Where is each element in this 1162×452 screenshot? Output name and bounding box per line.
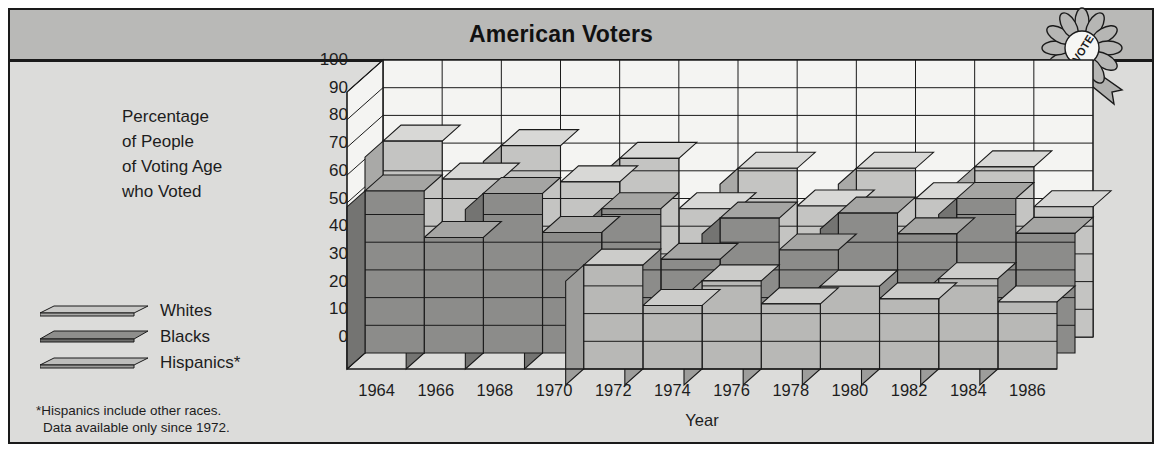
plot-area xyxy=(10,10,1152,442)
x-tick-label: 1972 xyxy=(582,381,644,400)
x-tick-label: 1964 xyxy=(346,381,408,400)
y-tick-label: 0 xyxy=(302,327,348,347)
bar-side-face xyxy=(566,265,584,385)
y-tick-label: 70 xyxy=(302,133,348,153)
bar-side-face xyxy=(347,191,365,369)
y-tick-label: 80 xyxy=(302,105,348,125)
chart-frame: American Voters xyxy=(8,8,1154,444)
y-tick-label: 90 xyxy=(302,78,348,98)
bar-front-face xyxy=(998,302,1057,369)
y-tick-label: 30 xyxy=(302,244,348,264)
x-tick-label: 1986 xyxy=(996,381,1058,400)
x-tick-label: 1984 xyxy=(937,381,999,400)
x-tick-label: 1982 xyxy=(878,381,940,400)
x-tick-label: 1974 xyxy=(641,381,703,400)
x-tick-label: 1980 xyxy=(819,381,881,400)
y-tick-label: 10 xyxy=(302,299,348,319)
y-tick-label: 60 xyxy=(302,161,348,181)
x-axis-title: Year xyxy=(347,411,1057,430)
bar-front-face xyxy=(483,193,542,353)
y-tick-label: 40 xyxy=(302,216,348,236)
bar-front-face xyxy=(939,279,998,369)
bar-front-face xyxy=(424,237,483,353)
y-tick-label: 100 xyxy=(302,50,348,70)
x-tick-label: 1976 xyxy=(701,381,763,400)
x-tick-label: 1968 xyxy=(464,381,526,400)
chart-page: American Voters xyxy=(0,0,1162,452)
x-tick-label: 1978 xyxy=(760,381,822,400)
bar-front-face xyxy=(643,306,702,369)
x-tick-label: 1966 xyxy=(405,381,467,400)
bar-front-face xyxy=(365,191,424,353)
y-axis-ticks: 0102030405060708090100 xyxy=(302,10,348,452)
y-tick-label: 50 xyxy=(302,189,348,209)
bar-front-face xyxy=(820,286,879,369)
bar-front-face xyxy=(584,265,643,369)
bar-front-face xyxy=(880,299,939,369)
x-tick-label: 1970 xyxy=(523,381,585,400)
y-tick-label: 20 xyxy=(302,272,348,292)
